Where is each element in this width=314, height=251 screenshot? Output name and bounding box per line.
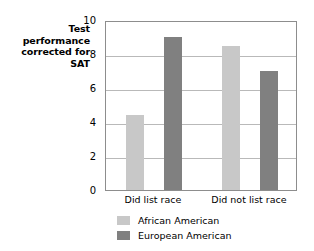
- legend-label: European American: [138, 231, 231, 241]
- bar: [222, 46, 240, 191]
- bar: [164, 37, 182, 190]
- legend-swatch: [117, 216, 130, 225]
- y-axis-tick-label: 4: [74, 118, 96, 128]
- y-axis-tick-label: 6: [74, 84, 96, 94]
- x-axis-tick-label: Did not list race: [189, 194, 309, 205]
- bar: [260, 71, 278, 190]
- legend-swatch: [117, 231, 130, 240]
- y-axis-title-line-2: performance: [4, 35, 90, 47]
- legend-label: African American: [138, 216, 219, 226]
- y-axis-title: Test performance corrected for SAT: [4, 23, 90, 69]
- legend: African AmericanEuropean American: [117, 214, 231, 244]
- bar: [126, 115, 144, 190]
- plot-area: [105, 21, 297, 191]
- bar-chart-figure: Test performance corrected for SAT 10864…: [0, 0, 314, 251]
- y-axis-tick-label: 8: [74, 50, 96, 60]
- legend-item: European American: [117, 229, 231, 242]
- legend-item: African American: [117, 214, 231, 227]
- y-axis-tick-label: 10: [74, 16, 96, 26]
- gridline: [106, 56, 296, 57]
- y-axis-tick-label: 2: [74, 152, 96, 162]
